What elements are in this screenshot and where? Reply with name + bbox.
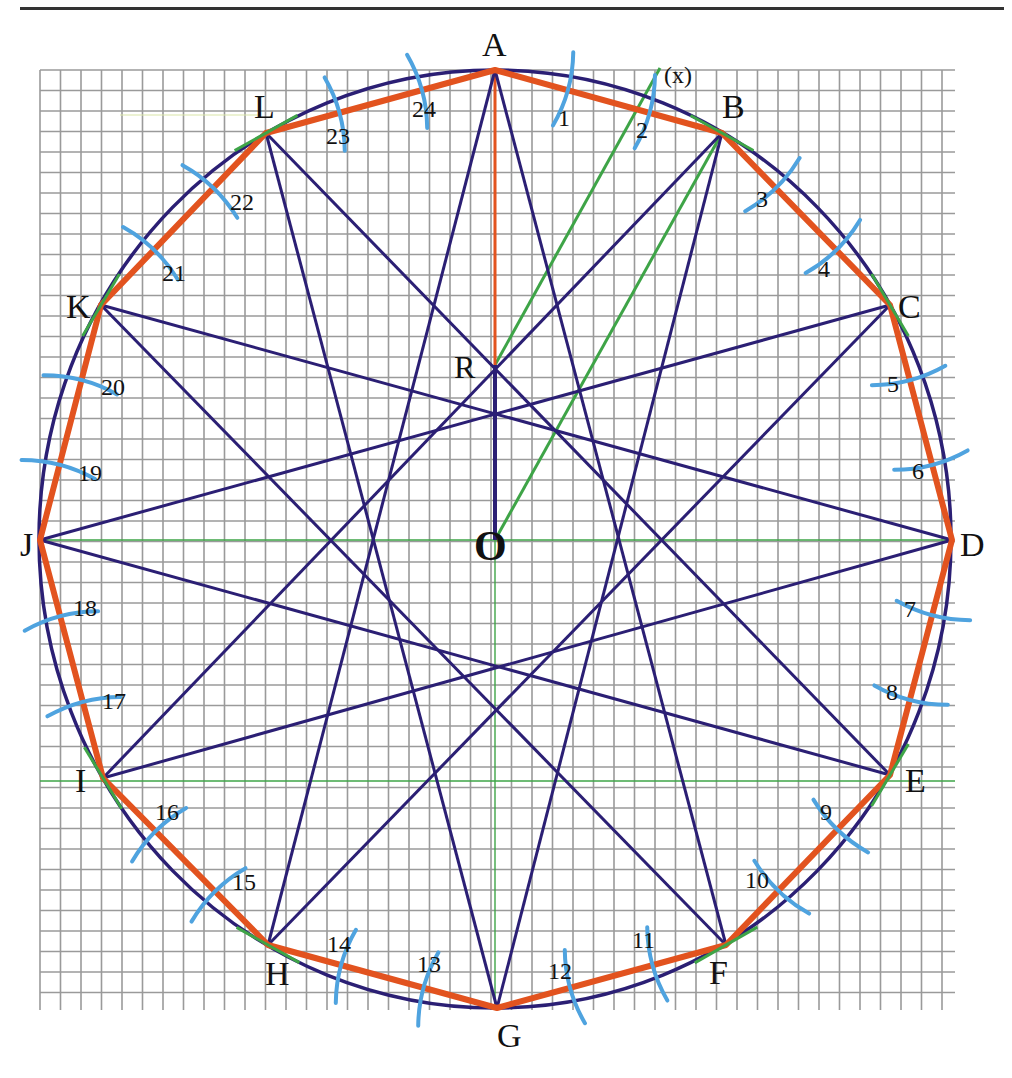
arc-number-10: 10 [745, 867, 769, 893]
vertex-label-F: F [709, 954, 728, 991]
arc-number-5: 5 [887, 371, 899, 397]
vertex-label-G: G [497, 1017, 522, 1054]
star-line-H-A [268, 70, 495, 945]
arc-number-17: 17 [102, 688, 126, 714]
vertex-label-C: C [898, 288, 921, 325]
vertex-label-K: K [66, 288, 91, 325]
arc-number-22: 22 [230, 189, 254, 215]
arc-number-24: 24 [412, 96, 436, 122]
center-label-O: O [474, 523, 507, 569]
arc-number-21: 21 [162, 260, 186, 286]
axis-marker-x: (x) [664, 62, 692, 88]
vertex-label-D: D [960, 526, 985, 563]
arc-number-20: 20 [101, 374, 125, 400]
arc-number-2: 2 [636, 117, 648, 143]
arc-number-1: 1 [558, 105, 570, 131]
vertex-label-L: L [254, 88, 275, 125]
vertex-tick-I [84, 747, 121, 809]
arc-number-12: 12 [548, 958, 572, 984]
arc-number-9: 9 [820, 799, 832, 825]
arc-number-16: 16 [155, 799, 179, 825]
star-line-K-D [101, 305, 952, 540]
vertex-label-H: H [265, 955, 290, 992]
arc-number-11: 11 [632, 927, 655, 953]
arc-number-18: 18 [73, 595, 97, 621]
star-line-I-B [103, 133, 722, 778]
star-line-L-E [266, 133, 890, 775]
arc-number-14: 14 [327, 931, 351, 957]
arc-number-3: 3 [756, 186, 768, 212]
arc-number-19: 19 [78, 460, 102, 486]
star-line-E-J [40, 540, 890, 775]
vertex-label-B: B [722, 88, 745, 125]
arc-number-15: 15 [232, 869, 256, 895]
vertex-label-A: A [482, 26, 507, 63]
arc-number-7: 7 [904, 596, 916, 622]
dodecagon-construction-figure: ABCDEFGHIJKLOR(x)12345678910111213141516… [0, 0, 1012, 1078]
arc-number-23: 23 [326, 123, 350, 149]
point-label-R: R [454, 349, 476, 385]
arc-number-8: 8 [886, 679, 898, 705]
vertex-label-J: J [20, 526, 33, 563]
vertex-label-I: I [75, 762, 86, 799]
star-line-B-G [497, 133, 722, 1008]
arc-number-4: 4 [818, 256, 830, 282]
arc-number-13: 13 [417, 951, 441, 977]
vertex-tick-E [872, 744, 909, 806]
vertex-label-E: E [905, 762, 926, 799]
arc-number-6: 6 [912, 458, 924, 484]
star-line-J-C [40, 305, 890, 540]
